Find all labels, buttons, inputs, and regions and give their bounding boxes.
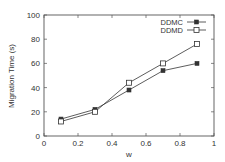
filled-square-marker-icon bbox=[195, 20, 199, 24]
plot-frame bbox=[44, 15, 214, 136]
y-tick-label: 0 bbox=[36, 132, 41, 141]
legend: DDMCDDMD bbox=[161, 18, 207, 35]
filled-square-marker-icon bbox=[127, 88, 131, 92]
line-chart: 020406080100 00.20.40.60.81 DDMCDDMD w M… bbox=[0, 0, 225, 162]
y-tick-label: 100 bbox=[27, 11, 41, 20]
x-tick-label: 0.6 bbox=[140, 139, 152, 148]
legend-item-ddmd: DDMD bbox=[161, 26, 207, 35]
series-ddmd bbox=[59, 42, 200, 124]
open-square-marker-icon bbox=[127, 80, 132, 85]
y-tick-label: 60 bbox=[31, 59, 40, 68]
plot-border bbox=[44, 15, 214, 136]
x-axis-label: w bbox=[125, 150, 132, 159]
y-tick-label: 40 bbox=[31, 84, 40, 93]
filled-square-marker-icon bbox=[161, 69, 165, 73]
x-tick-label: 1 bbox=[212, 139, 217, 148]
series-ddmc bbox=[59, 61, 199, 121]
x-tick-label: 0.8 bbox=[174, 139, 186, 148]
open-square-marker-icon bbox=[161, 61, 166, 66]
y-tick-label: 80 bbox=[31, 35, 40, 44]
filled-square-marker-icon bbox=[195, 61, 199, 65]
x-tick-label: 0.4 bbox=[106, 139, 118, 148]
y-tick-label: 20 bbox=[31, 108, 40, 117]
open-square-marker-icon bbox=[59, 119, 64, 124]
y-axis-ticks: 020406080100 bbox=[27, 11, 214, 141]
legend-label: DDMD bbox=[161, 26, 184, 35]
open-square-marker-icon bbox=[93, 109, 98, 114]
open-square-marker-icon bbox=[194, 28, 199, 33]
open-square-marker-icon bbox=[195, 42, 200, 47]
x-tick-label: 0.2 bbox=[72, 139, 84, 148]
x-tick-label: 0 bbox=[42, 139, 47, 148]
data-series bbox=[59, 42, 200, 124]
y-axis-label: Migration Time (s) bbox=[7, 44, 16, 108]
